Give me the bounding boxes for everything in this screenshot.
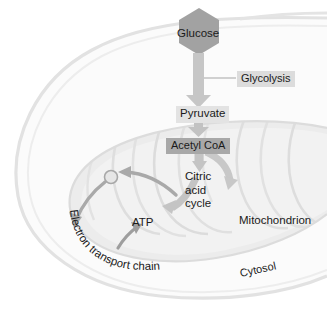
label-atp: ATP <box>132 216 154 230</box>
label-acetyl-coa: Acetyl CoA <box>166 138 230 154</box>
label-glucose: Glucose <box>177 27 219 41</box>
label-pyruvate: Pyruvate <box>176 106 229 123</box>
label-glycolysis: Glycolysis <box>237 71 295 87</box>
citric-acid-cycle-line-2: acid <box>185 184 211 198</box>
cellular-respiration-diagram: Electron transport chain Glucose Glycoly… <box>0 0 327 314</box>
label-mitochondrion: Mitochondrion <box>239 214 311 228</box>
diagram-canvas: Electron transport chain <box>0 0 327 314</box>
citric-acid-cycle-line-1: Citric <box>185 170 211 184</box>
label-citric-acid-cycle: Citric acid cycle <box>185 170 211 211</box>
arrow-shaft <box>193 53 204 99</box>
citric-acid-cycle-line-3: cycle <box>185 197 211 211</box>
